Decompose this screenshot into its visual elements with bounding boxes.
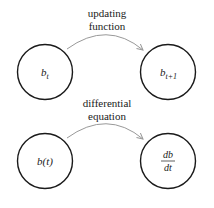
row-updating-function: updating function bt bt+1 <box>18 7 196 100</box>
arrow-edge <box>67 124 143 139</box>
edge-label-line1: differential <box>83 97 132 109</box>
edge-label-line2: equation <box>88 110 126 122</box>
edge-label-line1: updating <box>88 7 127 19</box>
fraction-denominator: dt <box>164 162 172 173</box>
node-label-bt: bt <box>41 66 50 81</box>
edge-label-line2: function <box>89 20 126 32</box>
row-differential-equation: differential equation b(t) db dt <box>18 97 196 189</box>
node-label-bt1: bt+1 <box>160 66 177 81</box>
diagram-canvas: updating function bt bt+1 differential e… <box>0 0 214 208</box>
fraction-numerator: db <box>163 149 173 160</box>
node-label-b-of-t: b(t) <box>37 155 53 168</box>
arrow-edge <box>67 35 143 50</box>
